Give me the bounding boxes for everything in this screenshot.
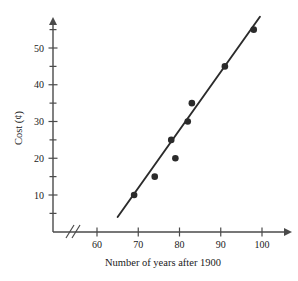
y-tick-label: 40: [34, 79, 44, 90]
y-tick-label: 50: [34, 43, 44, 54]
x-tick-label: 70: [133, 239, 143, 250]
y-tick-label: 20: [34, 153, 44, 164]
x-tick-label: 90: [216, 239, 226, 250]
chart-canvas: 1020304050 60708090100 Cost (¢) Number o…: [0, 0, 298, 281]
chart-background: [0, 0, 298, 281]
x-tick-label: 100: [255, 239, 270, 250]
y-tick-label: 30: [34, 116, 44, 127]
data-point: [168, 137, 175, 144]
data-point: [184, 118, 191, 125]
data-point: [172, 155, 179, 162]
x-tick-label: 80: [175, 239, 185, 250]
data-point: [250, 26, 257, 33]
data-point: [189, 100, 196, 107]
x-axis-title: Number of years after 1900: [105, 257, 221, 268]
data-point: [151, 173, 158, 180]
data-point: [131, 192, 138, 199]
y-tick-label: 10: [34, 190, 44, 201]
y-axis-title: Cost (¢): [13, 110, 25, 145]
x-tick-label: 60: [92, 239, 102, 250]
scatter-plot-figure: 1020304050 60708090100 Cost (¢) Number o…: [0, 0, 298, 281]
data-point: [222, 63, 229, 70]
